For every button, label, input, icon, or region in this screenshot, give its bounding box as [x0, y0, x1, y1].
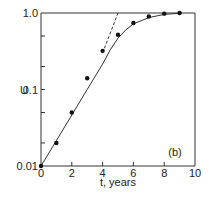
x-axis-label: t, years — [100, 176, 137, 188]
plot-curves — [41, 13, 180, 166]
y-tick-label: 1.0 — [23, 7, 38, 19]
data-point — [100, 49, 104, 53]
data-point — [85, 76, 89, 80]
data-points — [39, 11, 182, 168]
x-tick-label: 8 — [161, 167, 167, 179]
x-tick-label: 10 — [189, 167, 201, 179]
data-point — [147, 14, 151, 18]
panel-label: (b) — [168, 146, 181, 158]
data-point — [116, 33, 120, 37]
extrapolation-line — [103, 13, 118, 53]
x-tick-label: 0 — [38, 167, 44, 179]
x-tick-label: 2 — [69, 167, 75, 179]
chart: 0246810 1.00.10.01 U t, years (b) — [0, 0, 212, 197]
data-point — [177, 11, 181, 15]
data-point — [131, 21, 135, 25]
data-point — [70, 110, 74, 114]
data-point — [39, 164, 43, 168]
data-point — [54, 141, 58, 145]
y-tick-label: 0.01 — [17, 160, 38, 172]
fit-curve — [41, 13, 180, 166]
data-point — [162, 11, 166, 15]
y-axis-label: U — [20, 84, 28, 96]
